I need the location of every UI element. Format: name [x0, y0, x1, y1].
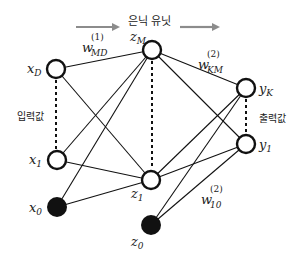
node-x1 [48, 151, 66, 169]
label-z1: z1 [131, 187, 144, 203]
input-label: 입력값 [17, 108, 44, 123]
label-z0: z0 [131, 235, 144, 251]
arrow-left-icon [76, 23, 120, 31]
output-label: 출력값 [259, 110, 286, 125]
label-x0: x0 [29, 201, 42, 217]
nodes [47, 41, 255, 235]
hidden-units-title: 은닉 유닛 [128, 12, 172, 28]
node-x0-bias [47, 197, 67, 217]
weight-label-w2-10: w (2) 10 [201, 192, 212, 207]
node-z0-bias [141, 215, 161, 235]
label-y1: y1 [259, 138, 272, 154]
label-zM: zM [130, 30, 146, 46]
edge-z1-y1 [151, 144, 246, 180]
node-xD [47, 60, 65, 78]
weight-label-w1-MD: w (1) MD [82, 40, 93, 55]
node-z1 [142, 171, 160, 189]
label-xD: xD [27, 62, 42, 78]
node-y1 [237, 135, 255, 153]
label-yK: yK [259, 82, 273, 98]
arrow-right-icon [180, 23, 220, 31]
weight-label-w2-KM: w (2) KM [198, 57, 209, 72]
edge-z1-yK [151, 88, 246, 180]
label-x1: x1 [29, 153, 42, 169]
edges [56, 50, 246, 225]
node-yK [237, 79, 255, 97]
network-diagram [0, 0, 307, 258]
